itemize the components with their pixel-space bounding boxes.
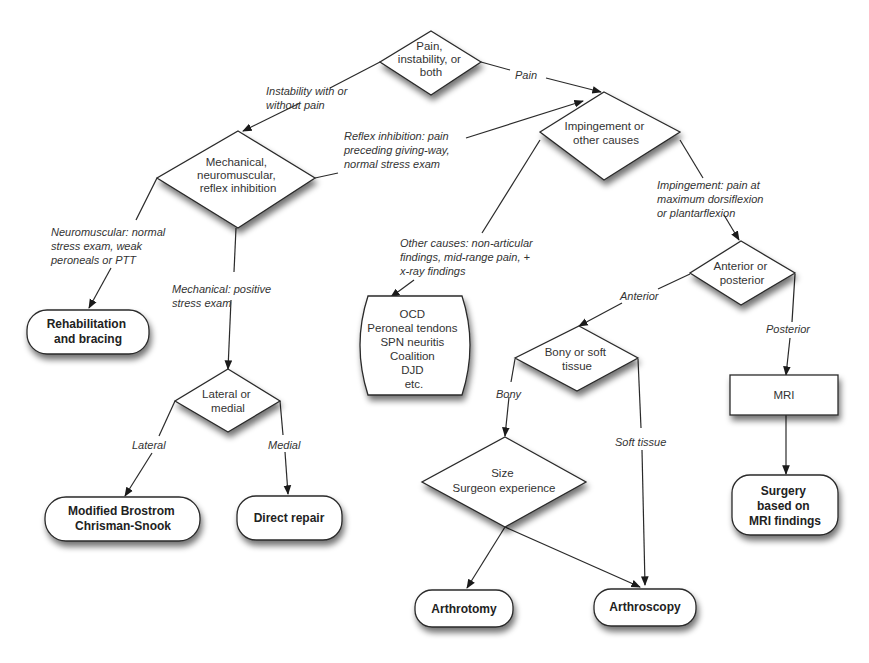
edge-line-reflex-a [315,173,338,178]
edge-arrow-arthrotomy [467,527,505,588]
svg-text:Mechanical, neuromuscula: Mechanical, neuromuscular, reflex inhibi… [197,156,279,194]
decision-size: Size Surgeon experience [422,437,586,527]
edge-label-neuromuscular: Neuromuscular: normal stress exam, weak … [50,226,168,266]
decision-bony-soft: Bony or soft tissue [515,326,638,391]
edge-line-med-a [280,401,283,435]
edge-arrow-other [391,280,414,297]
terminal-other-causes-list: OCD Peroneal tendons SPN neuritis Coalit… [360,296,470,395]
terminal-rehabilitation: Rehabilitation and bracing [27,310,149,354]
edge-label-anterior: Anterior [619,290,660,302]
edge-arrow-lat [125,453,152,496]
svg-text:Direct repair: Direct repair [254,511,325,525]
edge-line-post-a [792,274,795,322]
edge-line-mech-a [234,228,236,272]
decision-anterior-posterior: Anterior or posterior [690,241,795,305]
decision-lateral-medial: Lateral or medial [175,369,280,432]
terminal-surgery-mri: Surgery based on MRI findings [732,475,838,535]
svg-text:Rehabilitation and braci: Rehabilitation and bracing [47,317,130,346]
edge-label-bony: Bony [496,388,523,400]
edge-line-bony-a [511,359,515,382]
terminal-direct-repair: Direct repair [237,496,342,540]
edge-line-imp-a [680,140,703,178]
edge-label-instability: Instability with or without pain [266,85,350,111]
edge-line-ant-a [658,274,690,289]
edge-line-lat-a [159,401,175,436]
edge-arrow-soft [642,450,645,585]
terminal-arthroscopy: Arthroscopy [594,589,696,626]
edge-label-lateral: Lateral [132,439,166,451]
flowchart-canvas: Instability with or without pain Pain Re… [0,0,869,663]
edge-arrow-pain [546,78,601,92]
edge-arrow-neuro [89,268,111,308]
edge-arrow-med [285,452,288,494]
edge-label-soft-tissue: Soft tissue [615,436,666,448]
edge-arrow-mech [228,300,231,369]
terminal-modified-brostrom: Modified Brostrom Chrisman-Snook [45,497,200,541]
svg-text:Modified Brostrom Chrism: Modified Brostrom Chrisman-Snook [68,504,178,533]
edge-arrow-bony [505,397,509,436]
svg-text:MRI: MRI [773,389,794,401]
edge-label-reflex: Reflex inhibition: pain preceding giving… [343,130,453,170]
edge-label-posterior: Posterior [766,323,811,335]
edge-label-mechanical: Mechanical: positive stress exam [172,283,274,309]
edge-label-medial: Medial [268,439,301,451]
edge-label-impingement: Impingement: pain at maximum dorsiflexio… [657,179,766,219]
edge-line-neuro-a [136,178,157,220]
terminal-arthrotomy: Arthrotomy [415,590,513,627]
edge-label-pain: Pain [515,69,537,81]
edge-arrow-ant [579,303,622,326]
edge-line-pain-a [481,62,510,70]
decision-root: Pain, instability, or both [380,31,481,95]
edge-line-soft-a [638,359,641,428]
edge-arrow-arthroscopy [505,527,640,587]
decision-mechanical: Mechanical, neuromuscular, reflex inhibi… [157,131,315,228]
svg-text:Arthroscopy: Arthroscopy [609,600,681,614]
edge-label-other-causes: Other causes: non-articular findings, mi… [399,237,536,277]
edge-arrow-post [786,338,790,375]
svg-text:Arthrotomy: Arthrotomy [431,602,497,616]
process-mri: MRI [730,375,838,415]
decision-impingement: Impingement or other causes [540,92,680,180]
edge-line-other-a [482,140,540,233]
